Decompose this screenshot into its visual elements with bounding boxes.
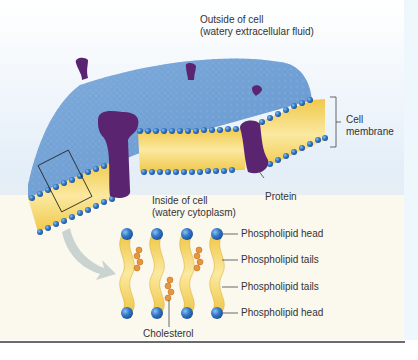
label-phospholipid-head-bottom: Phospholipid head (241, 307, 323, 319)
label-outside-line1: Outside of cell (200, 14, 314, 26)
diagram-canvas (0, 0, 418, 360)
label-outside-cell: Outside of cell (watery extracellular fl… (200, 14, 314, 38)
label-inside-line1: Inside of cell (152, 195, 236, 207)
label-inside-cell: Inside of cell (watery cytoplasm) (152, 195, 236, 219)
bilayer-middle (138, 128, 245, 172)
label-cholesterol: Cholesterol (143, 328, 194, 340)
label-membrane-line2: membrane (346, 126, 394, 138)
label-inside-line2: (watery cytoplasm) (152, 207, 236, 219)
page-edge (404, 0, 418, 340)
label-outside-line2: (watery extracellular fluid) (200, 26, 314, 38)
label-membrane-line1: Cell (346, 114, 394, 126)
label-phospholipid-head-top: Phospholipid head (241, 228, 323, 240)
bottom-rule (0, 341, 405, 343)
membrane-diagram: Outside of cell (watery extracellular fl… (0, 0, 418, 360)
label-phospholipid-tails-top: Phospholipid tails (241, 254, 319, 266)
label-cell-membrane: Cell membrane (346, 114, 394, 138)
label-protein: Protein (265, 191, 297, 203)
label-phospholipid-tails-bottom: Phospholipid tails (241, 281, 319, 293)
